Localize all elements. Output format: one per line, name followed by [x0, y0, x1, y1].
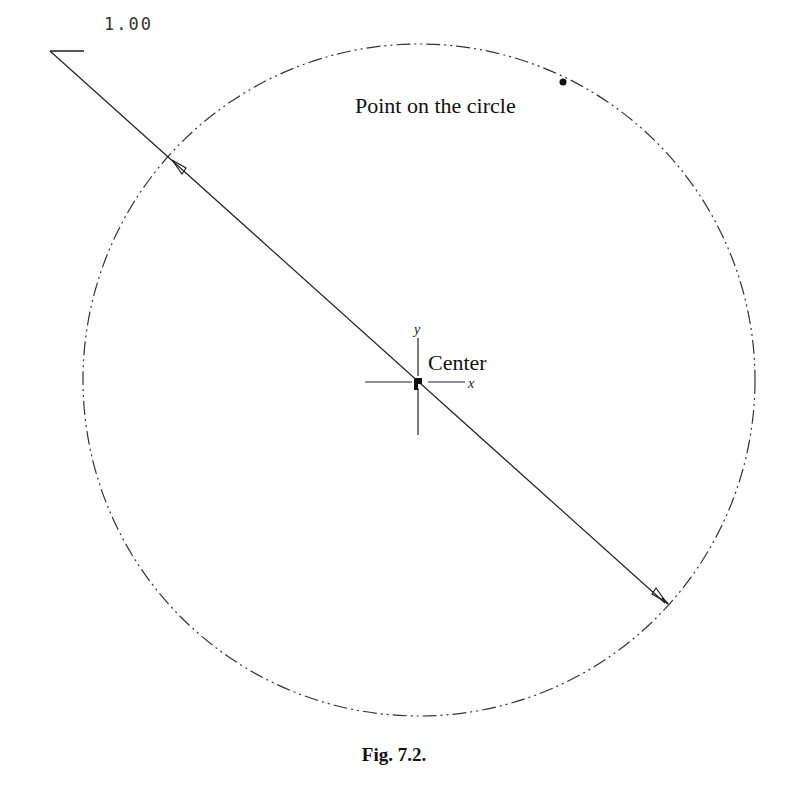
- axis-y-label: y: [412, 322, 421, 337]
- figure-caption: Fig. 7.2.: [0, 744, 788, 766]
- center-marker-icon: [414, 378, 422, 390]
- circle-diagram: 1.00 x y Point on the circle Center: [0, 0, 788, 786]
- center-label: Center: [428, 350, 487, 375]
- axis-x-label: x: [467, 376, 475, 391]
- point-on-circle-marker: [560, 79, 567, 86]
- dimension-value: 1.00: [104, 14, 153, 34]
- point-label: Point on the circle: [355, 93, 516, 118]
